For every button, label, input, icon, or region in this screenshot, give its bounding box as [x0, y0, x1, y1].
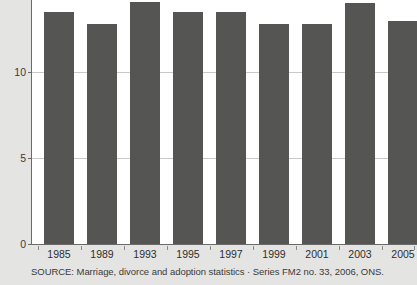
plot-area [31, 0, 417, 245]
bar-1995 [173, 12, 203, 244]
y-tick-mark-5 [28, 158, 32, 159]
x-tick-mark-9 [414, 246, 415, 250]
x-tick-label-2005: 2005 [382, 248, 417, 260]
x-axis-line [31, 244, 417, 245]
y-tick-label-10: 10 [2, 66, 26, 78]
bar-2003 [345, 3, 375, 244]
bar-1993 [130, 2, 160, 244]
x-tick-label-1989: 1989 [81, 248, 123, 260]
source-note: SOURCE: Marriage, divorce and adoption s… [31, 266, 417, 277]
x-tick-label-1997: 1997 [210, 248, 252, 260]
x-tick-label-2003: 2003 [339, 248, 381, 260]
bar-1999 [259, 24, 289, 244]
bar-1985 [44, 12, 74, 244]
y-tick-label-5: 5 [2, 152, 26, 164]
x-tick-label-2001: 2001 [296, 248, 338, 260]
bar-1989 [87, 24, 117, 244]
bar-1997 [216, 12, 246, 244]
x-tick-label-1999: 1999 [253, 248, 295, 260]
y-axis-line [31, 0, 32, 245]
bar-chart-figure: 10 5 0 1985 1989 1993 1995 1997 1999 200… [0, 0, 417, 285]
bar-2005 [388, 21, 417, 244]
y-tick-mark-10 [28, 72, 32, 73]
y-tick-mark-0 [28, 244, 32, 245]
x-tick-label-1985: 1985 [38, 248, 80, 260]
y-tick-label-0: 0 [2, 238, 26, 250]
bar-2001 [302, 24, 332, 244]
x-axis-labels: 1985 1989 1993 1995 1997 1999 2001 2003 … [31, 246, 417, 264]
x-tick-label-1993: 1993 [124, 248, 166, 260]
x-tick-label-1995: 1995 [167, 248, 209, 260]
